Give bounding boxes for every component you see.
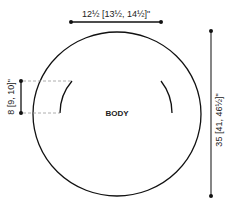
height-dimension-endpoint-top	[209, 29, 213, 33]
armhole-dimension-endpoint-bottom	[19, 111, 23, 115]
left-armhole-arc	[60, 81, 72, 113]
width-dimension-endpoint-right	[159, 20, 163, 24]
right-armhole-arc	[161, 81, 172, 113]
height-dimension-label: 35 [41, 46½]"	[214, 93, 224, 146]
piece-label: BODY	[105, 109, 129, 118]
height-dimension-endpoint-bottom	[209, 194, 213, 198]
width-dimension-endpoint-left	[69, 20, 73, 24]
armhole-dimension-endpoint-top	[19, 79, 23, 83]
armhole-dimension-label: 8 [9, 10]"	[6, 79, 16, 115]
width-dimension-label: 12½ [13½, 14½]"	[82, 9, 150, 19]
schematic-diagram: 12½ [13½, 14½]" 35 [41, 46½]" 8 [9, 10]"…	[0, 0, 239, 212]
